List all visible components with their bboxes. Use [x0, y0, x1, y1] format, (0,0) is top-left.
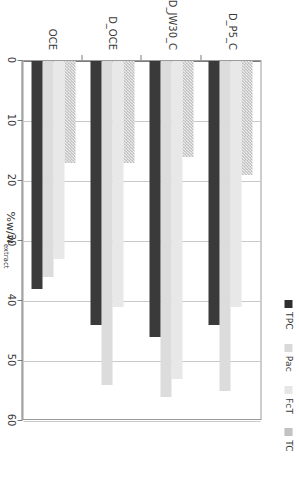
legend-item-tpc: TPC [283, 300, 293, 330]
bar-groups [23, 61, 260, 419]
bar-row [64, 61, 75, 419]
figure-rotation-container: TPC Pac FcT TC D_P5_CD_JW30_CD_OCEOCE [0, 0, 299, 478]
bar-d_oce-tpc [90, 61, 101, 325]
value-axis-title-main: %w/w [3, 212, 16, 244]
category-label-d_p5_c: D_P5_C [201, 0, 261, 56]
value-label-0: 0 [5, 57, 16, 63]
bar-row [241, 61, 252, 419]
bar-d_jw30_c-tc [182, 61, 193, 157]
bar-d_p5_c-tc [241, 61, 252, 175]
value-tick-0 [17, 60, 22, 61]
bar-d_jw30_c-pac [160, 61, 171, 397]
gridline-60 [23, 421, 260, 422]
bar-d_oce-pac [101, 61, 112, 385]
category-label-d_oce: D_OCE [82, 0, 142, 56]
value-axis-title: %w/wextract [1, 212, 16, 269]
legend-label-fct: FcT [283, 398, 293, 414]
legend-label-tc: TC [283, 440, 293, 452]
legend-label-pac: Pac [283, 356, 293, 372]
bar-group-d_jw30_c [142, 61, 201, 419]
bar-row [171, 61, 182, 419]
value-axis-title-sub: extract [1, 244, 9, 269]
value-label-20: 20 [5, 174, 16, 187]
bar-row [160, 61, 171, 419]
plot-area [22, 60, 261, 420]
bar-oce-pac [42, 61, 53, 277]
value-tick-20 [17, 180, 22, 181]
bar-group-oce [23, 61, 82, 419]
legend-label-tpc: TPC [283, 312, 293, 330]
bar-oce-fct [53, 61, 64, 259]
legend-item-tc: TC [283, 428, 293, 452]
bar-row [123, 61, 134, 419]
value-label-50: 50 [5, 354, 16, 367]
bar-row [182, 61, 193, 419]
bar-d_jw30_c-tpc [149, 61, 160, 337]
solid-lighter-square-icon [284, 386, 292, 394]
value-tick-40 [17, 300, 22, 301]
bar-row [112, 61, 123, 419]
bar-row [31, 61, 42, 419]
legend-item-pac: Pac [283, 344, 293, 372]
value-axis-title-wrap: %w/wextract [0, 60, 1, 420]
bar-d_oce-fct [112, 61, 123, 307]
solid-dark-square-icon [284, 300, 292, 308]
bar-d_p5_c-tpc [208, 61, 219, 325]
bar-row [230, 61, 241, 419]
bar-row [53, 61, 64, 419]
value-tick-60 [17, 420, 22, 421]
category-label-oce: OCE [22, 0, 82, 56]
bar-chart-figure: TPC Pac FcT TC D_P5_CD_JW30_CD_OCEOCE [0, 0, 299, 478]
category-label-d_jw30_c: D_JW30_C [142, 0, 202, 56]
value-tick-50 [17, 360, 22, 361]
bar-group-d_p5_c [201, 61, 260, 419]
bar-d_oce-tc [123, 61, 134, 163]
bar-row [101, 61, 112, 419]
bar-row [42, 61, 53, 419]
bar-oce-tpc [31, 61, 42, 289]
category-axis-labels: D_P5_CD_JW30_CD_OCEOCE [22, 0, 261, 56]
value-label-10: 10 [5, 114, 16, 127]
bar-row [208, 61, 219, 419]
solid-lightgray-square-icon [284, 344, 292, 352]
value-axis-ticks [17, 60, 22, 420]
bar-row [90, 61, 101, 419]
value-tick-30 [17, 240, 22, 241]
checkered-square-icon [284, 428, 292, 436]
bar-group-d_oce [82, 61, 141, 419]
value-label-60: 60 [5, 414, 16, 427]
legend-item-fct: FcT [283, 386, 293, 414]
value-tick-10 [17, 120, 22, 121]
bar-oce-tc [64, 61, 75, 163]
chart-legend: TPC Pac FcT TC [283, 300, 293, 452]
bar-row [149, 61, 160, 419]
value-label-40: 40 [5, 294, 16, 307]
bar-d_p5_c-pac [219, 61, 230, 391]
bar-d_p5_c-fct [230, 61, 241, 307]
bar-d_jw30_c-fct [171, 61, 182, 379]
bar-row [219, 61, 230, 419]
